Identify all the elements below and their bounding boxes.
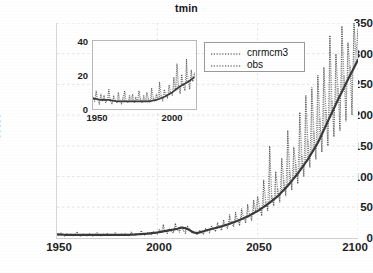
legend-line-swatch-obs [211,64,241,66]
inset-series-cnrmcm3 [93,59,194,104]
inset-x-tick-label: 1950 [86,112,107,123]
legend-label: obs [247,60,263,70]
x-axis-line [56,238,358,239]
inset-series-obs [93,78,194,102]
x-tick-label: 1950 [46,241,72,253]
x-tick-label: 2050 [246,241,272,253]
x-tick-label: 2000 [146,241,172,253]
inset-plot-svg [93,41,196,109]
inset-x-tick-label: 2000 [161,112,182,123]
inset-y-tick-label: 20 [64,70,88,81]
inset-y-tick-label: 0 [64,104,88,115]
legend-entry-obs: obs [211,58,263,71]
legend-label: cnrmcm3 [247,48,288,58]
chart-title: tmin [0,2,373,14]
x-tick-label: 2100 [342,241,368,253]
y-axis-label: HWI [0,114,2,138]
legend-line-swatch-cnrmcm3 [211,52,241,54]
chart-figure: tmin HWI 350 300 250 200 150 100 50 0 19… [0,0,373,273]
inset-y-tick-label: 40 [64,36,88,47]
inset-plot-area [92,40,197,110]
legend: cnrmcm3 obs [204,42,305,72]
